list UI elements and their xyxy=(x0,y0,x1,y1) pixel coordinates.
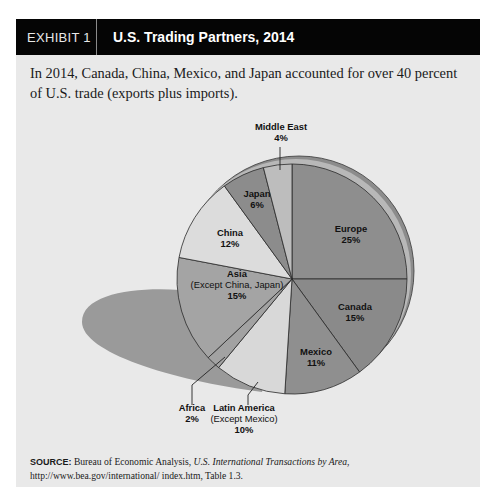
slice-sublabel-asia: (Except China, Japan) xyxy=(191,279,284,290)
slice-value-europe: 25% xyxy=(342,234,361,245)
source-label: SOURCE: xyxy=(30,457,72,467)
slice-label-latin-america: Latin America xyxy=(213,402,275,413)
source-text-before: Bureau of Economic Analysis, xyxy=(72,456,194,467)
slice-label-mexico: Mexico xyxy=(300,346,332,357)
slice-label-middle-east: Middle East xyxy=(255,121,307,132)
slice-value-mexico: 11% xyxy=(307,357,326,368)
slice-label-europe: Europe xyxy=(335,223,367,234)
slice-label-japan: Japan xyxy=(243,188,270,199)
slice-label-africa: Africa xyxy=(179,402,206,413)
slice-value-middle-east: 4% xyxy=(274,132,288,143)
slice-value-japan: 6% xyxy=(250,199,264,210)
source-title: U.S. International Transactions by Area xyxy=(194,456,348,467)
slice-label-asia: Asia xyxy=(227,268,248,279)
slice-label-china: China xyxy=(217,227,244,238)
slice-label-canada: Canada xyxy=(338,301,373,312)
slice-value-latin-america: 10% xyxy=(235,424,254,435)
slice-value-asia: 15% xyxy=(228,290,247,301)
slice-value-china: 12% xyxy=(221,238,240,249)
source-note: SOURCE: Bureau of Economic Analysis, U.S… xyxy=(30,455,470,483)
slice-value-africa: 2% xyxy=(185,413,199,424)
slice-value-canada: 15% xyxy=(346,312,365,323)
pie-slice-europe xyxy=(292,164,407,279)
slice-sublabel-latin-america: (Except Mexico) xyxy=(210,413,277,424)
pie-chart: Europe25%Canada15%Mexico11%Latin America… xyxy=(0,0,496,494)
